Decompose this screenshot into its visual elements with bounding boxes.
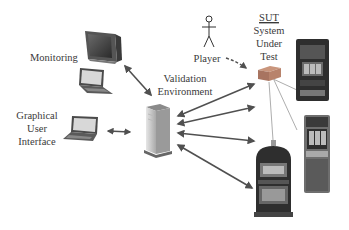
label-sut-line-2: Under xyxy=(256,38,283,49)
label-monitoring: Monitoring xyxy=(30,52,79,63)
link-sut-machine-3 xyxy=(269,82,273,140)
monitor-icon xyxy=(85,31,122,64)
edge-monitor-server xyxy=(125,66,151,95)
label-sut-line-1: System xyxy=(254,25,285,36)
server-icon xyxy=(144,104,172,158)
laptop-monitoring-icon xyxy=(79,68,113,94)
edge-server-machine-3 xyxy=(178,145,252,188)
label-player: Player xyxy=(194,53,221,64)
player-icon xyxy=(202,16,216,47)
slot-machine-2-icon xyxy=(304,115,330,193)
slot-machine-3-icon xyxy=(254,140,293,217)
edge-server-machine-1 xyxy=(178,107,254,124)
label-validation-line-1: Validation xyxy=(163,73,207,84)
edge-gui-server xyxy=(108,131,130,132)
edge-player-sut xyxy=(226,58,246,68)
label-gui-line-1: Graphical xyxy=(16,110,57,121)
label-sut-line-3: Test xyxy=(260,51,277,62)
slot-machine-1-icon xyxy=(296,39,329,101)
label-sut-abbrev: SUT xyxy=(259,12,279,23)
link-sut-machine-1 xyxy=(271,78,297,90)
label-gui-line-3: Interface xyxy=(18,136,56,147)
link-sut-machine-2 xyxy=(274,80,297,130)
sut-box-icon xyxy=(258,66,281,81)
label-gui-line-2: User xyxy=(27,123,47,134)
label-validation-line-2: Environment xyxy=(158,86,213,97)
edge-server-machine-2 xyxy=(178,133,254,141)
validation-diagram: Monitoring Graphical User Interface Vali… xyxy=(0,0,349,230)
laptop-gui-icon xyxy=(63,116,98,141)
